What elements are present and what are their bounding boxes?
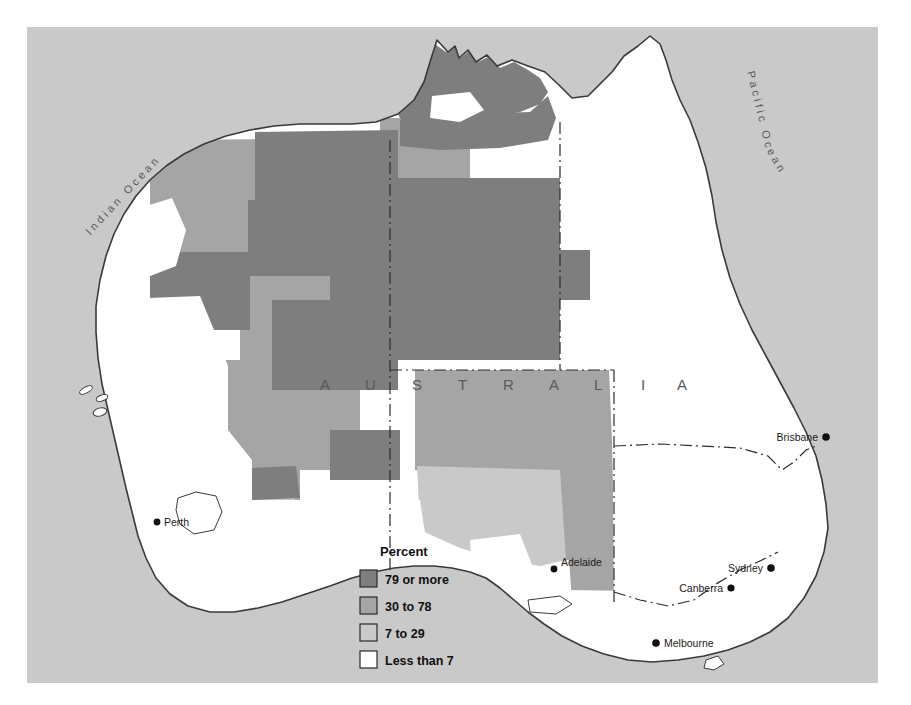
country-letter-2: S <box>412 376 422 393</box>
country-letter-0: A <box>320 376 330 393</box>
city-dot-melbourne <box>652 639 660 647</box>
legend-item-79-or-more[interactable]: 79 or more <box>360 570 449 587</box>
city-label-canberra: Canberra <box>679 582 723 594</box>
region-79-or-more-wa-small-patch <box>250 466 300 500</box>
legend-swatch-less-than-7 <box>360 651 377 668</box>
legend-swatch-7-to-29 <box>360 624 377 641</box>
city-label-sydney: Sydney <box>728 562 764 574</box>
city-dot-brisbane <box>822 433 830 441</box>
country-letter-7: I <box>641 376 645 393</box>
city-label-melbourne: Melbourne <box>664 637 714 649</box>
region-79-or-more-wa-southeast-block <box>272 300 398 390</box>
country-letter-4: R <box>503 376 514 393</box>
country-letter-6: L <box>594 376 602 393</box>
legend-label-less-than-7: Less than 7 <box>385 654 454 668</box>
country-letter-5: A <box>549 376 559 393</box>
legend-label-30-to-78: 30 to 78 <box>385 600 432 614</box>
country-letter-8: A <box>677 376 687 393</box>
city-label-adelaide: Adelaide <box>561 556 602 568</box>
choropleth-map-figure: Indian Ocean Pacific Ocean A U S T R A L… <box>0 0 911 705</box>
map-canvas: Indian Ocean Pacific Ocean A U S T R A L… <box>0 0 911 705</box>
legend-item-30-to-78[interactable]: 30 to 78 <box>360 597 432 614</box>
legend-label-7-to-29: 7 to 29 <box>385 627 425 641</box>
city-dot-adelaide <box>551 566 558 573</box>
legend-title: Percent <box>380 544 428 559</box>
country-letter-1: U <box>365 376 376 393</box>
legend-item-less-than-7[interactable]: Less than 7 <box>360 651 454 668</box>
legend-label-79-or-more: 79 or more <box>385 573 449 587</box>
country-letter-3: T <box>458 376 467 393</box>
city-dot-canberra <box>727 584 734 591</box>
city-dot-sydney <box>767 564 775 572</box>
city-label-brisbane: Brisbane <box>777 431 819 443</box>
legend-item-7-to-29[interactable]: 7 to 29 <box>360 624 425 641</box>
legend-swatch-30-to-78 <box>360 597 377 614</box>
legend-swatch-79-or-more <box>360 570 377 587</box>
city-dot-perth <box>154 519 161 526</box>
city-label-perth: Perth <box>164 516 189 528</box>
